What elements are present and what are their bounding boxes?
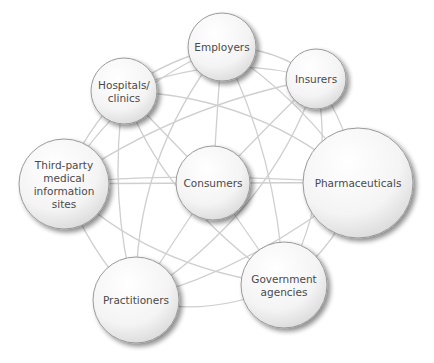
node-label: agencies: [261, 286, 308, 298]
node-label: information: [34, 185, 95, 197]
node-label: medical: [43, 172, 84, 184]
node-label: Pharmaceuticals: [315, 177, 402, 189]
node-label: sites: [52, 198, 76, 210]
node-label: Practitioners: [103, 294, 169, 306]
node-practitioners: Practitioners: [93, 257, 179, 343]
network-diagram: EmployersHospitals/clinicsInsurersThird-…: [0, 0, 434, 363]
node-label: Third-party: [34, 159, 93, 171]
node-label: clinics: [108, 92, 140, 104]
node-label: Consumers: [183, 177, 242, 189]
node-employers: Employers: [188, 13, 256, 81]
node-pharmaceuticals: Pharmaceuticals: [303, 128, 413, 238]
node-layer: EmployersHospitals/clinicsInsurersThird-…: [19, 13, 413, 343]
node-label: Hospitals/: [98, 79, 150, 91]
node-label: Employers: [194, 41, 249, 53]
node-label: Government: [251, 273, 316, 285]
node-label: Insurers: [295, 73, 337, 85]
node-insurers: Insurers: [286, 49, 346, 109]
node-government: Governmentagencies: [241, 242, 327, 328]
node-hospitals: Hospitals/clinics: [91, 58, 157, 124]
node-consumers: Consumers: [176, 146, 250, 220]
node-third-party: Third-partymedicalinformationsites: [19, 139, 109, 229]
